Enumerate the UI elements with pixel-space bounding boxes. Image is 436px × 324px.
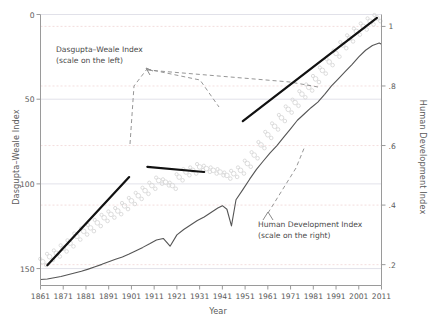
y-tick-label-right: 1 <box>389 22 417 31</box>
annotation-dasgupta-weale: Dasgupta–Weale Index (scale on the left) <box>56 45 143 66</box>
scatter-marker <box>318 66 321 69</box>
scatter-marker <box>243 159 246 162</box>
scatter-marker <box>317 80 321 84</box>
scatter-marker <box>366 17 369 20</box>
series-line-trend-segment-3 <box>243 18 377 121</box>
scatter-marker <box>298 90 301 93</box>
annotation-leader-line <box>268 146 305 213</box>
scatter-marker <box>78 238 82 242</box>
scatter-marker <box>359 22 362 25</box>
series-line-trend-segment-1 <box>47 177 129 265</box>
scatter-marker <box>365 28 369 32</box>
annotation-arrow-icon <box>263 212 273 220</box>
series-line-human-development-index <box>41 43 382 279</box>
scatter-marker <box>147 192 151 196</box>
scatter-marker <box>305 83 308 86</box>
scatter-marker <box>65 250 69 254</box>
x-tick-label: 1971 <box>281 292 300 301</box>
scatter-marker <box>339 40 342 43</box>
scatter-marker <box>304 96 308 100</box>
scatter-marker <box>216 168 219 171</box>
scatter-marker <box>153 187 157 191</box>
scatter-marker <box>175 173 178 176</box>
annotation-human-development-line2: (scale on the right) <box>258 231 362 242</box>
chart-figure: Dasgupta–Weale Index Human Development I… <box>0 0 436 324</box>
scatter-marker <box>229 177 233 181</box>
scatter-marker <box>155 176 158 179</box>
x-tick-label: 1931 <box>190 292 209 301</box>
scatter-marker <box>249 165 253 169</box>
scatter-marker <box>257 140 260 143</box>
scatter-marker <box>209 166 212 169</box>
scatter-marker <box>263 146 267 150</box>
scatter-marker <box>161 178 164 181</box>
scatter-marker <box>230 169 233 172</box>
scatter-marker <box>311 74 314 77</box>
scatter-marker <box>297 104 301 108</box>
y-tick-label-left: 50 <box>7 95 35 104</box>
scatter-marker <box>119 212 123 216</box>
scatter-marker <box>106 219 110 223</box>
scatter-marker <box>141 186 144 189</box>
x-tick-label: 1901 <box>122 292 141 301</box>
scatter-marker <box>107 210 110 213</box>
scatter-marker <box>59 244 62 247</box>
scatter-marker <box>127 196 130 199</box>
scatter-marker <box>291 98 294 101</box>
scatter-marker <box>283 119 287 123</box>
x-tick-label: 1891 <box>99 292 118 301</box>
y-axis-right-title: Human Development Index <box>418 97 428 217</box>
scatter-marker <box>344 46 348 50</box>
scatter-marker <box>52 249 55 252</box>
y-tick-label-left: 0 <box>7 10 35 19</box>
annotation-leader-line <box>130 69 147 144</box>
annotation-dasgupta-weale-line1: Dasgupta–Weale Index <box>56 45 143 56</box>
x-tick-label: 1911 <box>144 292 163 301</box>
scatter-marker <box>126 207 130 211</box>
scatter-marker <box>310 89 314 93</box>
y-tick-label-right: .4 <box>389 201 417 210</box>
x-tick-label: 2001 <box>349 292 368 301</box>
scatter-marker <box>345 34 348 37</box>
scatter-marker <box>100 213 103 216</box>
annotation-human-development: Human Development Index (scale on the ri… <box>258 220 362 241</box>
annotation-leader-line <box>147 69 219 107</box>
x-tick-label: 1921 <box>167 292 186 301</box>
scatter-marker <box>134 191 137 194</box>
annotation-dasgupta-weale-line2: (scale on the left) <box>56 56 143 67</box>
scatter-marker <box>202 164 205 167</box>
x-tick-label: 1881 <box>76 292 95 301</box>
x-tick-label: 1981 <box>304 292 323 301</box>
scatter-marker <box>338 55 342 59</box>
scatter-marker <box>189 166 192 169</box>
series-line-trend-segment-2 <box>147 167 204 172</box>
scatter-marker <box>242 172 246 176</box>
x-tick-label: 2011 <box>372 292 391 301</box>
scatter-marker <box>331 63 335 67</box>
scatter-marker <box>72 245 76 249</box>
scatter-marker <box>372 23 376 27</box>
scatter-marker <box>284 105 287 108</box>
scatter-marker <box>195 162 198 165</box>
x-tick-label: 1991 <box>326 292 345 301</box>
x-tick-label: 1961 <box>258 292 277 301</box>
scatter-marker <box>99 224 103 228</box>
scatter-marker <box>290 111 294 115</box>
annotation-leader-group <box>130 68 318 220</box>
scatter-marker <box>256 156 260 160</box>
scatter-marker <box>351 40 355 44</box>
y-tick-label-right: .8 <box>389 81 417 90</box>
x-tick-label: 1871 <box>54 292 73 301</box>
x-axis-title: Year <box>0 306 436 316</box>
annotation-human-development-line1: Human Development Index <box>258 220 362 231</box>
scatter-marker <box>93 218 96 221</box>
scatter-marker <box>276 128 280 132</box>
y-tick-label-right: .6 <box>389 141 417 150</box>
scatter-marker <box>92 229 96 233</box>
scatter-marker <box>324 72 328 76</box>
scatter-marker <box>236 166 239 169</box>
y-axis-left-title: Dasgupta–Weale Index <box>11 97 21 217</box>
scatter-marker <box>264 130 267 133</box>
scatter-marker <box>174 187 178 191</box>
x-tick-label: 1861 <box>31 292 50 301</box>
